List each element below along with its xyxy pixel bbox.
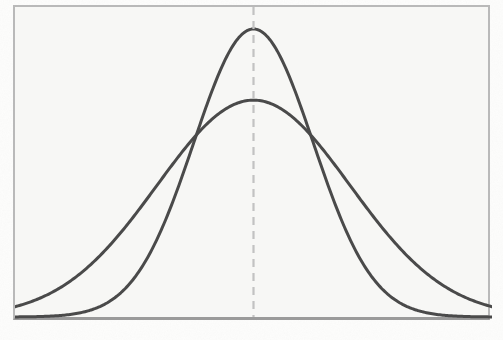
scanned-page-background bbox=[0, 0, 503, 340]
figure-plot-frame bbox=[13, 5, 490, 320]
distribution-curves-canvas bbox=[15, 7, 492, 319]
figure-caption bbox=[13, 322, 490, 340]
